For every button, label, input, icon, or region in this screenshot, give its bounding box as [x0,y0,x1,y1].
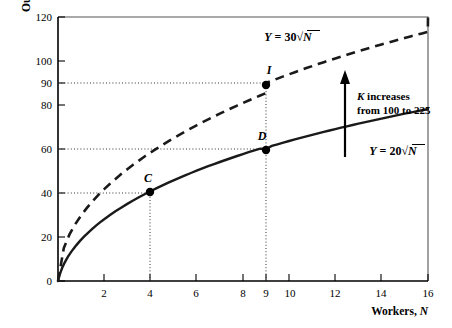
svg-text:Y = 20√N: Y = 20√N [369,144,418,158]
x-tick-label-12: 12 [330,287,341,299]
lower-eq-radicand: N [407,144,418,158]
y-tick-label-100: 100 [36,55,53,67]
x-tick-label-16: 16 [423,287,435,299]
y-axis-tick-labels: 120 100 90 80 60 40 20 0 [36,11,53,287]
x-axis-title: Workers, N [371,305,429,317]
guide-lines [58,83,266,281]
y-tick-label-0: 0 [47,275,53,287]
shift-arrow [340,70,350,157]
note-range-text: from 100 to 225 [357,104,431,116]
upper-eq-body: = 30 [272,30,297,44]
lower-eq-body: = 20 [377,144,402,158]
upper-eq-radicand: N [302,30,313,44]
x-tick-label-8: 8 [240,287,246,299]
x-tick-label-6: 6 [193,287,199,299]
x-tick-label-9: 9 [263,287,269,299]
x-tick-label-2: 2 [101,287,107,299]
capital-increase-note: K increases from 100 to 225 [356,90,431,116]
y-tick-label-60: 60 [41,143,53,155]
svg-text:Y = 30√N: Y = 30√N [264,30,313,44]
data-point-label-d: D [257,129,267,143]
upper-curve-equation-label: Y = 30√N [264,30,320,44]
chart-figure: 120 100 90 80 60 40 20 0 2 4 6 8 9 [0,0,452,328]
y-axis-title: Output, Y [20,0,33,12]
x-axis-title-var: N [419,305,429,317]
x-tick-label-10: 10 [285,287,297,299]
lower-curve-equation-label: Y = 20√N [369,144,425,158]
svg-text:K increases: K increases [356,90,410,102]
x-tick-label-4: 4 [147,287,153,299]
production-function-chart: 120 100 90 80 60 40 20 0 2 4 6 8 9 [0,0,452,328]
y-tick-label-20: 20 [41,231,53,243]
y-tick-label-120: 120 [36,11,53,23]
x-axis-tick-labels: 2 4 6 8 9 10 12 14 16 [101,287,434,299]
y-axis-title-static: Output, [20,0,33,12]
x-axis-title-static: Workers, [371,305,420,317]
note-increases-text: increases [364,90,410,102]
data-point-label-i: I [266,63,273,77]
curve-lower-20-sqrt-n [58,109,428,281]
data-point-i [262,81,270,89]
y-tick-label-40: 40 [41,187,53,199]
y-tick-label-90: 90 [41,77,53,89]
x-tick-label-14: 14 [376,287,388,299]
data-point-label-c: C [144,171,153,185]
y-tick-label-80: 80 [41,99,53,111]
data-point-d [262,146,270,154]
data-point-c [146,188,154,196]
